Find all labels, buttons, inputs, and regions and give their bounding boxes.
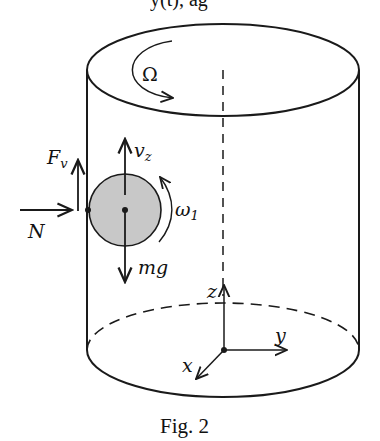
figure-canvas: y(t), ag Ω vz mg ω1 N Fv z <box>0 0 380 441</box>
rotation-omega: Ω <box>132 41 173 98</box>
x-axis-arrow-icon <box>196 350 224 379</box>
top-cut-text: y(t), ag <box>150 0 208 11</box>
normal-force-label: N <box>27 220 46 242</box>
figure-caption: Fig. 2 <box>160 414 209 438</box>
coordinate-axes: z y x <box>182 280 287 379</box>
contact-point-dot <box>85 207 91 213</box>
velocity-label: vz <box>134 139 152 164</box>
origin-dot <box>221 347 227 353</box>
z-axis-label: z <box>206 280 218 302</box>
ball: vz mg ω1 <box>85 139 199 282</box>
cylinder-bottom-front <box>87 350 359 397</box>
forces: N Fv <box>20 146 78 242</box>
friction-force-label: Fv <box>46 146 68 171</box>
cylinder-bottom-back-dashed <box>87 303 359 350</box>
svg-text:y(t), ag: y(t), ag <box>150 0 208 11</box>
y-axis-label: y <box>274 324 286 346</box>
weight-label: mg <box>138 256 168 278</box>
omega-label: Ω <box>142 63 158 85</box>
spin-label: ω1 <box>175 198 199 223</box>
x-axis-label: x <box>182 354 193 376</box>
